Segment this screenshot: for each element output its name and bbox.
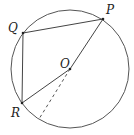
point-q-dot xyxy=(22,32,25,35)
geometry-diagram: P Q R O xyxy=(0,0,134,135)
label-p: P xyxy=(105,3,115,17)
segment-op xyxy=(70,19,103,69)
label-o: O xyxy=(60,57,70,71)
segment-ro xyxy=(22,69,70,103)
label-r: R xyxy=(10,106,20,120)
segment-o-extension-dashed xyxy=(39,69,70,119)
point-p-dot xyxy=(102,18,105,21)
point-r-dot xyxy=(21,102,24,105)
label-q: Q xyxy=(8,21,18,35)
segment-qr xyxy=(22,33,23,103)
